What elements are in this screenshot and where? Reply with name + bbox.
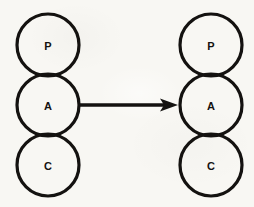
abstraction-arrow[interactable] xyxy=(80,99,178,112)
right-abstraction-label: A xyxy=(207,100,215,112)
left-control-label: C xyxy=(44,160,52,172)
right-control-label: C xyxy=(207,160,215,172)
right-pac-agent: P A C xyxy=(180,14,242,196)
left-abstraction-label: A xyxy=(44,100,52,112)
node-right-abstraction[interactable]: A xyxy=(180,74,242,136)
node-left-abstraction[interactable]: A xyxy=(17,74,79,136)
node-right-presentation[interactable]: P xyxy=(180,14,242,76)
left-presentation-label: P xyxy=(44,40,52,52)
pac-diagram: P A C P A xyxy=(0,0,254,207)
node-left-control[interactable]: C xyxy=(17,134,79,196)
left-pac-agent: P A C xyxy=(17,14,79,196)
node-left-presentation[interactable]: P xyxy=(17,14,79,76)
right-presentation-label: P xyxy=(207,40,215,52)
node-right-control[interactable]: C xyxy=(180,134,242,196)
diagram-canvas: P A C P A xyxy=(0,0,254,207)
